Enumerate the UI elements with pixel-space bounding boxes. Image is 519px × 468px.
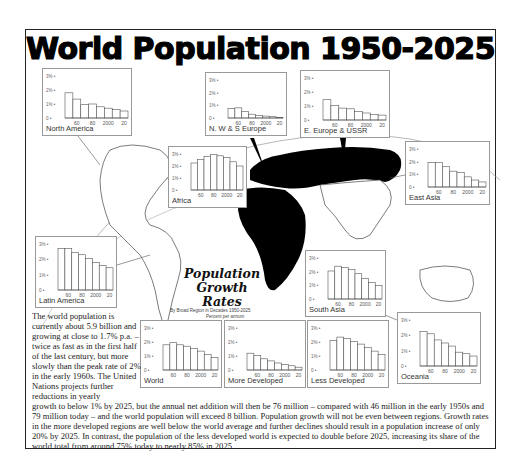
svg-text:20: 20 bbox=[379, 372, 385, 378]
panel-label: World bbox=[144, 376, 163, 385]
svg-text:2% •: 2% • bbox=[401, 333, 411, 338]
chart-panel-less-developed: 0 •1% •2% •3% •6080200020Less Developed bbox=[307, 320, 389, 388]
svg-text:1% •: 1% • bbox=[409, 172, 419, 177]
caption-line-1: Population bbox=[172, 267, 272, 281]
panel-label: North America bbox=[46, 124, 94, 133]
chart-panel-more-developed: 0 •1% •2% •3% •6080200020More Developed bbox=[224, 320, 306, 388]
body-text-left: The world population is currently about … bbox=[32, 311, 142, 401]
svg-text:1% •: 1% • bbox=[209, 103, 219, 108]
svg-text:20: 20 bbox=[379, 122, 385, 128]
svg-text:3% •: 3% • bbox=[311, 326, 321, 331]
svg-text:1% •: 1% • bbox=[46, 102, 56, 107]
svg-text:2% •: 2% • bbox=[144, 340, 154, 345]
svg-text:20: 20 bbox=[237, 192, 243, 198]
svg-text:2000: 2000 bbox=[360, 301, 371, 307]
svg-text:20: 20 bbox=[471, 368, 477, 374]
svg-text:0 •: 0 • bbox=[144, 368, 150, 373]
svg-text:80: 80 bbox=[349, 301, 355, 307]
svg-text:0 •: 0 • bbox=[172, 188, 178, 193]
caption-line-3: Rates bbox=[172, 295, 272, 309]
svg-text:2000: 2000 bbox=[103, 120, 114, 126]
svg-text:80: 80 bbox=[184, 372, 190, 378]
svg-text:20: 20 bbox=[376, 301, 382, 307]
svg-text:60: 60 bbox=[198, 192, 204, 198]
svg-text:1% •: 1% • bbox=[228, 354, 238, 359]
chart-panel-north-america: 0 •1% •2% •3% •6080200020North America bbox=[42, 68, 132, 136]
svg-text:2000: 2000 bbox=[221, 192, 232, 198]
svg-text:20: 20 bbox=[107, 292, 113, 298]
svg-text:80: 80 bbox=[442, 368, 448, 374]
svg-text:80: 80 bbox=[211, 192, 217, 198]
svg-text:2000: 2000 bbox=[454, 368, 465, 374]
caption-subtitle: By Broad Region in Decades 1950-2025 bbox=[170, 308, 251, 313]
svg-text:60: 60 bbox=[171, 372, 177, 378]
svg-text:1% •: 1% • bbox=[144, 354, 154, 359]
svg-text:3% •: 3% • bbox=[46, 74, 56, 79]
svg-text:1% •: 1% • bbox=[309, 283, 319, 288]
svg-text:2% •: 2% • bbox=[46, 88, 56, 93]
body-text-bottom: growth to below 1% by 2025, but the annu… bbox=[32, 401, 494, 451]
svg-text:3% •: 3% • bbox=[144, 326, 154, 331]
svg-text:3% •: 3% • bbox=[209, 78, 219, 83]
svg-text:0 •: 0 • bbox=[309, 297, 315, 302]
svg-text:3% •: 3% • bbox=[228, 326, 238, 331]
svg-text:0 •: 0 • bbox=[228, 368, 234, 373]
svg-text:20: 20 bbox=[212, 372, 218, 378]
panel-label: South Asia bbox=[309, 305, 345, 314]
chart-panel-nws-europe: 0 •1% •2% •3% •6080200020N. W & S Europe bbox=[205, 72, 287, 136]
svg-text:1% •: 1% • bbox=[401, 349, 411, 354]
svg-text:3% •: 3% • bbox=[39, 242, 49, 247]
svg-text:3% •: 3% • bbox=[401, 318, 411, 323]
svg-text:1% •: 1% • bbox=[311, 354, 321, 359]
svg-text:2% •: 2% • bbox=[228, 340, 238, 345]
panel-label: Oceania bbox=[401, 372, 429, 381]
panel-label: E. Europe & USSR bbox=[304, 126, 367, 135]
svg-text:2% •: 2% • bbox=[172, 164, 182, 169]
asia-outline bbox=[320, 180, 391, 239]
svg-text:20: 20 bbox=[277, 120, 283, 126]
panel-label: More Developed bbox=[228, 376, 283, 385]
chart-panel-e-europe-ussr: 0 •1% •2% •3% •6080200020E. Europe & USS… bbox=[300, 70, 390, 138]
page-title: World Population 1950-2025 bbox=[25, 33, 496, 65]
panel-label: East Asia bbox=[409, 193, 440, 202]
svg-text:20: 20 bbox=[296, 372, 302, 378]
svg-text:2% •: 2% • bbox=[311, 340, 321, 345]
svg-text:2% •: 2% • bbox=[209, 91, 219, 96]
chart-caption: Population Growth Rates bbox=[172, 267, 272, 309]
chart-panel-africa: 0 •1% •2% •3% •6080200020Africa bbox=[168, 146, 247, 208]
svg-text:0 •: 0 • bbox=[39, 288, 45, 293]
chart-panel-world: 0 •1% •2% •3% •6080200020World bbox=[140, 320, 222, 388]
panel-label: Africa bbox=[172, 196, 191, 205]
chart-panel-south-asia: 0 •1% •2% •3% •6080200020South Asia bbox=[305, 250, 386, 317]
svg-text:2000: 2000 bbox=[462, 189, 473, 195]
svg-text:0 •: 0 • bbox=[209, 116, 215, 121]
svg-text:80: 80 bbox=[451, 189, 457, 195]
svg-text:0 •: 0 • bbox=[409, 185, 415, 190]
panel-label: N. W & S Europe bbox=[209, 124, 266, 133]
svg-text:0 •: 0 • bbox=[401, 364, 407, 369]
panel-label: Latin America bbox=[39, 296, 84, 305]
australia-outline bbox=[420, 266, 474, 302]
panel-label: Less Developed bbox=[311, 376, 365, 385]
svg-text:2% •: 2% • bbox=[309, 270, 319, 275]
svg-text:1% •: 1% • bbox=[39, 273, 49, 278]
svg-text:2000: 2000 bbox=[90, 292, 101, 298]
caption-line-2: Growth bbox=[172, 281, 272, 295]
svg-text:2% •: 2% • bbox=[39, 257, 49, 262]
svg-text:3% •: 3% • bbox=[172, 152, 182, 157]
svg-text:3% •: 3% • bbox=[309, 256, 319, 261]
svg-text:3% •: 3% • bbox=[304, 76, 314, 81]
svg-text:2% •: 2% • bbox=[304, 90, 314, 95]
svg-text:1% •: 1% • bbox=[172, 176, 182, 181]
svg-text:0 •: 0 • bbox=[304, 118, 310, 123]
svg-text:2% •: 2% • bbox=[409, 160, 419, 165]
svg-text:20: 20 bbox=[480, 189, 486, 195]
chart-panel-oceania: 0 •1% •2% •3% •6080200020Oceania bbox=[397, 312, 481, 384]
svg-text:0 •: 0 • bbox=[46, 116, 52, 121]
svg-text:1% •: 1% • bbox=[304, 104, 314, 109]
svg-text:0 •: 0 • bbox=[311, 368, 317, 373]
chart-panel-latin-america: 0 •1% •2% •3% •6080200020Latin America bbox=[35, 236, 117, 308]
svg-text:2000: 2000 bbox=[195, 372, 206, 378]
svg-text:3% •: 3% • bbox=[409, 147, 419, 152]
caption-units: Percent per annum bbox=[206, 314, 244, 319]
